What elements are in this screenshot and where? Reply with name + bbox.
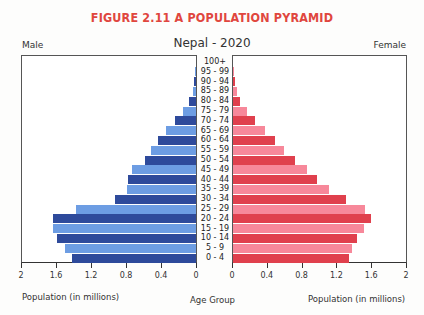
age-group-label: 5 - 9 (195, 243, 235, 253)
female-bar (233, 97, 240, 106)
female-bar (233, 156, 295, 165)
male-bar (166, 126, 196, 135)
female-bar (233, 87, 237, 96)
tick-mark (91, 263, 92, 268)
age-group-label: 25 - 29 (195, 204, 235, 214)
male-bar (76, 205, 196, 214)
age-group-label: 30 - 34 (195, 194, 235, 204)
female-bar (233, 205, 365, 214)
age-group-label: 80 - 84 (195, 96, 235, 106)
age-group-label: 0 - 4 (195, 253, 235, 263)
tick-mark (336, 263, 337, 268)
age-group-label: 20 - 24 (195, 214, 235, 224)
male-bar (145, 156, 196, 165)
age-group-label: 70 - 74 (195, 116, 235, 126)
age-group-label: 95 - 99 (195, 67, 235, 77)
female-bar (233, 136, 275, 145)
age-group-label: 75 - 79 (195, 106, 235, 116)
tick-mark (406, 263, 407, 268)
female-bar (233, 175, 317, 184)
x-axis-right-title: Population (in millions) (308, 294, 405, 304)
male-bar (115, 195, 196, 204)
female-bar (233, 195, 346, 204)
female-bar (233, 185, 329, 194)
male-bar (53, 214, 196, 223)
age-group-label: 40 - 44 (195, 175, 235, 185)
tick-mark (196, 263, 197, 268)
female-bar (233, 254, 349, 263)
tick-label: 0.8 (290, 271, 314, 280)
age-group-label: 85 - 89 (195, 86, 235, 96)
tick-mark (161, 263, 162, 268)
tick-mark (56, 263, 57, 268)
male-bar (195, 67, 196, 76)
male-bar (128, 175, 196, 184)
figure-title: FIGURE 2.11 A POPULATION PYRAMID (30, 10, 395, 25)
tick-label: 1.6 (44, 271, 68, 280)
male-bar (72, 254, 196, 263)
female-bar (233, 244, 352, 253)
male-bar (132, 165, 196, 174)
male-bar (183, 107, 196, 116)
tick-mark (267, 263, 268, 268)
male-bar (65, 244, 196, 253)
x-axis-left-title: Population (in millions) (22, 292, 119, 302)
tick-label: 2 (9, 271, 33, 280)
age-group-label: 15 - 19 (195, 224, 235, 234)
tick-label: 0.4 (149, 271, 173, 280)
tick-mark (21, 263, 22, 268)
male-bar (158, 136, 196, 145)
male-bar (57, 234, 196, 243)
male-bar (193, 87, 196, 96)
male-bar (175, 116, 196, 125)
female-bar (233, 214, 371, 223)
tick-label: 1.2 (79, 271, 103, 280)
tick-label: 1.6 (359, 271, 383, 280)
female-bar (233, 146, 284, 155)
tick-mark (371, 263, 372, 268)
tick-mark (302, 263, 303, 268)
male-label: Male (22, 40, 43, 50)
female-bar (233, 116, 255, 125)
female-bar (233, 165, 307, 174)
tick-label: 2 (394, 271, 418, 280)
tick-mark (126, 263, 127, 268)
age-group-label: 60 - 64 (195, 135, 235, 145)
age-group-label: 45 - 49 (195, 165, 235, 175)
age-group-label: 50 - 54 (195, 155, 235, 165)
female-bar (233, 234, 357, 243)
tick-label: 0 (220, 271, 244, 280)
female-bar (233, 224, 364, 233)
male-bar (189, 97, 196, 106)
tick-label: 0 (184, 271, 208, 280)
age-group-label: 90 - 94 (195, 77, 235, 87)
male-bar (53, 224, 197, 233)
male-bar (151, 146, 196, 155)
tick-mark (232, 263, 233, 268)
tick-label: 1.2 (324, 271, 348, 280)
male-bar (127, 185, 196, 194)
age-group-label: 35 - 39 (195, 184, 235, 194)
tick-label: 0.8 (114, 271, 138, 280)
chart-title: Nepal - 2020 (0, 36, 424, 50)
age-group-label: 10 - 14 (195, 233, 235, 243)
female-bar (233, 77, 235, 86)
tick-label: 0.4 (255, 271, 279, 280)
age-group-label: 65 - 69 (195, 126, 235, 136)
female-bar (233, 67, 234, 76)
age-group-label: 100+ (195, 57, 235, 67)
female-bar (233, 107, 247, 116)
female-label: Female (373, 40, 406, 50)
age-group-label: 55 - 59 (195, 145, 235, 155)
female-bar (233, 126, 265, 135)
x-axis-center-title: Age Group (190, 295, 235, 305)
male-bar (194, 77, 196, 86)
